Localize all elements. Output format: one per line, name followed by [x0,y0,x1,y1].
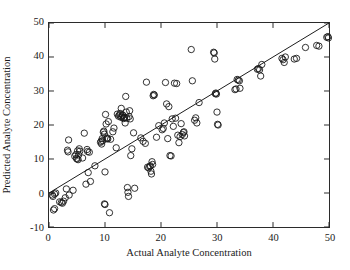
plot-area [48,22,330,228]
x-tick-label: 30 [212,233,223,244]
y-axis-title: Predicted Analyte Concentration [2,56,13,193]
x-tick-label: 0 [45,233,50,244]
y-tick-label: 20 [14,120,44,131]
y-tick-label: 40 [14,51,44,62]
y-axis-title-container: Predicted Analyte Concentration [0,22,14,228]
x-tick-label: 20 [156,233,167,244]
axis-ticks [49,23,329,227]
y-tick-label: 30 [14,85,44,96]
x-tick-label: 40 [268,233,279,244]
y-tick-label: -10 [14,223,44,234]
data-points [49,33,331,215]
x-axis-title: Actual Analyte Concentration [48,248,330,259]
plot-canvas [49,23,329,227]
identity-line [49,23,329,193]
scatter-plot-figure: Predicted Analyte Concentration -1001020… [0,0,350,270]
y-tick-label: 10 [14,154,44,165]
x-tick-label: 50 [325,233,336,244]
y-tick-label: 50 [14,17,44,28]
x-tick-label: 10 [99,233,110,244]
y-tick-label: 0 [14,188,44,199]
